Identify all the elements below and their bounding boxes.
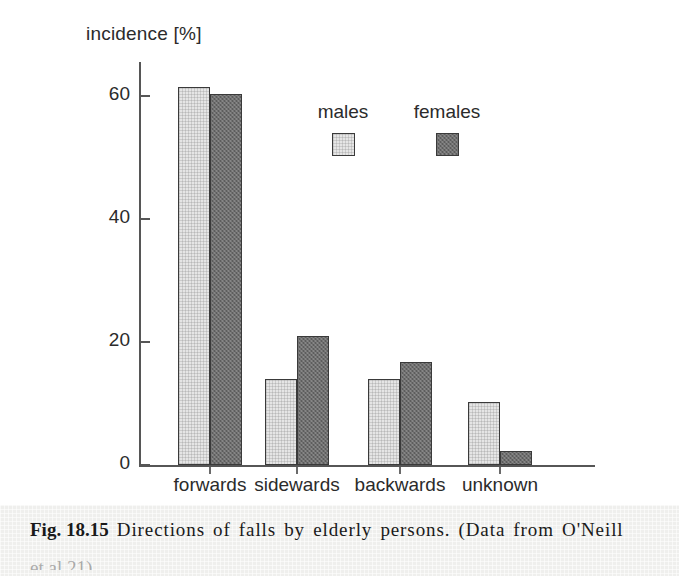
bar-backwards-females: [400, 362, 432, 465]
bar-sidewards-females: [297, 336, 329, 465]
x-tick-forwards: [209, 467, 211, 474]
y-tick-0: [141, 464, 150, 466]
figure-plot-area: incidence [%] 6040200 forwardssidewardsb…: [0, 0, 679, 505]
legend-swatch-females: [436, 133, 459, 156]
bar-sidewards-males: [265, 379, 297, 465]
x-axis-line: [139, 465, 595, 467]
bar-backwards-males: [368, 379, 400, 465]
y-axis-title: incidence [%]: [86, 23, 202, 45]
x-tick-backwards: [399, 467, 401, 474]
legend-entry-females: females: [404, 101, 490, 156]
bar-unknown-females: [500, 451, 532, 465]
bar-unknown-males: [468, 402, 500, 465]
y-tick-label-0: 0: [84, 452, 130, 474]
figure-caption-continuation: et al.21): [30, 557, 92, 570]
y-tick-20: [141, 341, 150, 343]
figure-caption: Fig. 18.15 Directions of falls by elderl…: [30, 519, 660, 541]
y-tick-60: [141, 95, 150, 97]
chart-legend: males females: [300, 101, 500, 167]
y-tick-label-60: 60: [84, 83, 130, 105]
bar-forwards-females: [210, 94, 242, 465]
figure-caption-band: Fig. 18.15 Directions of falls by elderl…: [0, 505, 679, 576]
x-tick-sidewards: [296, 467, 298, 474]
y-tick-40: [141, 218, 150, 220]
y-tick-label-40: 40: [84, 206, 130, 228]
bar-forwards-males: [178, 87, 210, 465]
y-axis-line: [139, 62, 141, 467]
legend-swatch-males: [332, 133, 355, 156]
legend-label-males: males: [300, 101, 386, 123]
figure-caption-text: Directions of falls by elderly persons. …: [109, 519, 624, 540]
x-tick-unknown: [499, 467, 501, 474]
category-label-unknown: unknown: [430, 474, 570, 496]
figure-number: Fig. 18.15: [30, 519, 109, 540]
y-tick-label-20: 20: [84, 329, 130, 351]
legend-entry-males: males: [300, 101, 386, 156]
legend-label-females: females: [404, 101, 490, 123]
